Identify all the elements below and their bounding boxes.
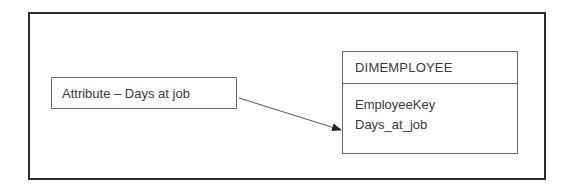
- entity-field-employeekey: EmployeeKey: [355, 95, 517, 115]
- entity-header: DIMEMPLOYEE: [343, 52, 517, 84]
- entity-fields: EmployeeKey Days_at_job: [343, 84, 517, 135]
- entity-field-days-at-job: Days_at_job: [355, 115, 517, 135]
- attribute-label: Attribute – Days at job: [62, 86, 190, 101]
- attribute-box: Attribute – Days at job: [51, 77, 237, 109]
- entity-dimemployee: DIMEMPLOYEE EmployeeKey Days_at_job: [342, 51, 518, 154]
- entity-name: DIMEMPLOYEE: [355, 60, 453, 75]
